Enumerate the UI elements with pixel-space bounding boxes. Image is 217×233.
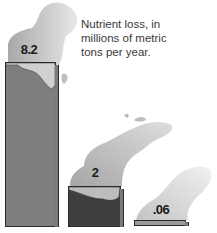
chart-title-line-1: Nutrient loss, in [81,17,216,31]
bar-3-side [185,222,189,226]
chart-title-line-2: millions of metric [81,31,216,45]
bar-1 [5,62,56,227]
bar-2-eroded-top [69,187,120,205]
bar-2-side [120,189,124,227]
chart-title: Nutrient loss, in millions of metric ton… [81,17,216,59]
bar-3-value-label: .06 [146,202,176,217]
bar-2 [68,186,121,227]
bar-3 [134,220,186,226]
chart-title-line-3: tons per year. [81,45,216,59]
bar-1-eroded-top [6,63,55,93]
bar-2-value-label: 2 [80,165,110,180]
bar-1-value-label: 8.2 [12,42,46,57]
bar-1-side [55,65,59,227]
